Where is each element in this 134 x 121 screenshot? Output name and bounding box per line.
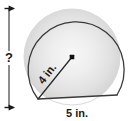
chord-label: 5 in. xyxy=(66,107,88,119)
geometry-diagram: ? 4 in. 5 in. xyxy=(0,0,134,121)
center-dot-icon xyxy=(70,55,75,60)
height-unknown-label: ? xyxy=(5,50,13,65)
geometry-figure-container: ? 4 in. 5 in. xyxy=(0,0,134,121)
